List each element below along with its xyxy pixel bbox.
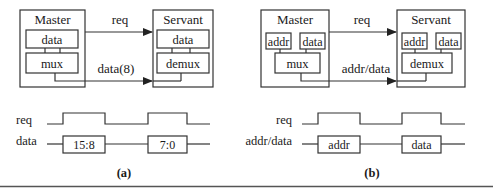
req-signal-label: req bbox=[112, 12, 129, 27]
servant-addr-label: addr bbox=[404, 35, 425, 49]
master-title: Master bbox=[34, 12, 71, 27]
timing-row-req: req bbox=[276, 113, 293, 127]
timing-row-addr-data: addr/data bbox=[245, 134, 292, 148]
data-segment-high: 15:8 bbox=[73, 138, 94, 152]
addr-segment: addr bbox=[328, 138, 349, 152]
timing-row-data: data bbox=[16, 134, 37, 148]
req-waveform bbox=[47, 113, 210, 124]
servant-title: Servant bbox=[163, 12, 203, 27]
bus-diagram: Master data mux Servant data demux req d… bbox=[0, 0, 493, 192]
master-title: Master bbox=[277, 12, 314, 27]
timing-diagram-a: req data 15:8 7:0 bbox=[16, 113, 210, 153]
servant-data-label: data bbox=[173, 33, 194, 47]
servant-block-b: Servant addr data demux bbox=[397, 10, 465, 87]
master-data-label: data bbox=[303, 35, 324, 49]
timing-row-req: req bbox=[16, 113, 33, 127]
servant-demux-label: demux bbox=[410, 57, 445, 71]
servant-demux-label: demux bbox=[166, 57, 201, 71]
master-block-b: Master addr data mux bbox=[261, 10, 329, 87]
bus-signal-label: addr/data bbox=[342, 61, 391, 76]
servant-title: Servant bbox=[411, 12, 451, 27]
master-addr-label: addr bbox=[268, 35, 289, 49]
servant-data-label: data bbox=[439, 35, 460, 49]
master-mux-label: mux bbox=[286, 57, 309, 71]
panel-a: Master data mux Servant data demux req d… bbox=[16, 10, 213, 180]
panel-b: Master addr data mux Servant addr data d… bbox=[245, 10, 465, 180]
master-data-label: data bbox=[42, 33, 63, 47]
master-block-a: Master data mux bbox=[20, 10, 85, 87]
servant-block-a: Servant data demux bbox=[153, 10, 213, 87]
req-signal-label: req bbox=[354, 12, 371, 27]
master-mux-label: mux bbox=[41, 57, 64, 71]
data-segment: data bbox=[412, 138, 433, 152]
data-segment-low: 7:0 bbox=[160, 138, 175, 152]
caption-a: (a) bbox=[117, 166, 132, 180]
req-waveform bbox=[302, 113, 465, 124]
timing-diagram-b: req addr/data addr data bbox=[245, 113, 465, 153]
caption-b: (b) bbox=[364, 166, 379, 180]
data-signal-label: data(8) bbox=[98, 61, 135, 76]
